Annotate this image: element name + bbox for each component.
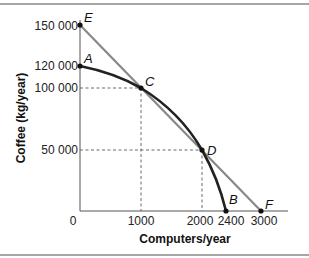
- y-axis-title: Coffee (kg/year): [14, 73, 28, 164]
- label-d: D: [207, 143, 216, 158]
- label-e: E: [84, 10, 93, 25]
- x-tick-3000: 3000: [251, 214, 278, 228]
- label-a: A: [83, 51, 93, 66]
- label-f: F: [265, 197, 274, 212]
- ppf-chart: E A C D B F 150 000 120 000 100 000 50 0…: [0, 0, 309, 258]
- x-tick-1000: 1000: [128, 214, 155, 228]
- line-ef: [80, 25, 261, 211]
- x-axis-title: Computers/year: [139, 232, 231, 246]
- x-tick-2400: 2400: [218, 214, 245, 228]
- x-tick-2000: 2000: [187, 214, 214, 228]
- label-b: B: [229, 192, 238, 207]
- y-tick-50000: 50 000: [41, 143, 78, 157]
- y-tick-100000: 100 000: [35, 81, 79, 95]
- label-c: C: [145, 74, 155, 89]
- x-tick-0: 0: [70, 214, 77, 228]
- guide-lines: [80, 88, 202, 211]
- y-tick-120000: 120 000: [35, 59, 79, 73]
- y-tick-150000: 150 000: [35, 19, 79, 33]
